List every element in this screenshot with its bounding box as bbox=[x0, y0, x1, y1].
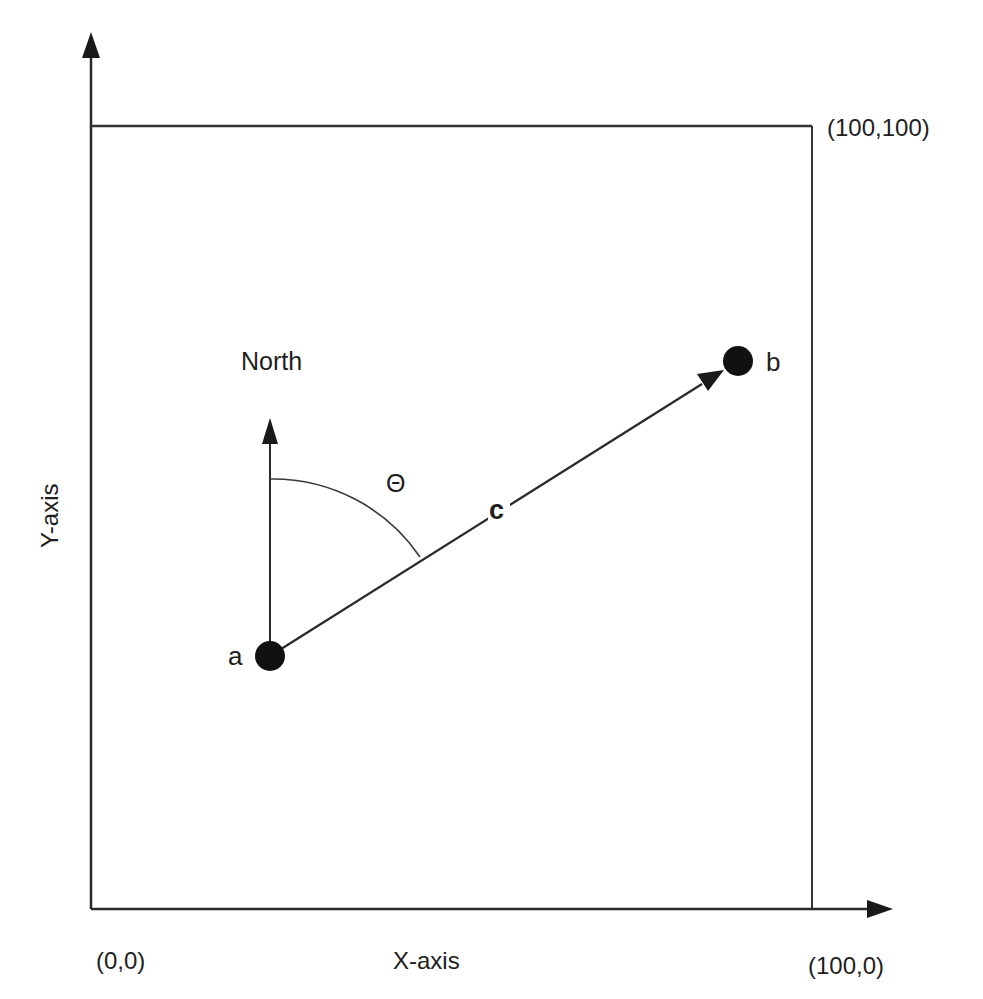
theta-label: Θ bbox=[386, 469, 405, 497]
x-axis bbox=[91, 900, 893, 918]
north-arrow bbox=[262, 418, 278, 656]
x-axis-label: X-axis bbox=[393, 947, 460, 974]
bounding-box bbox=[91, 126, 812, 909]
x-axis-arrow-icon bbox=[867, 900, 893, 918]
y-axis-arrow-icon bbox=[82, 32, 100, 58]
x-max-label: (100,0) bbox=[808, 952, 884, 979]
point-b bbox=[723, 346, 753, 376]
vector-arrow-icon bbox=[697, 370, 724, 391]
origin-label: (0,0) bbox=[96, 947, 145, 974]
y-axis-label: Y-axis bbox=[36, 484, 63, 548]
point-a-label: a bbox=[228, 641, 243, 671]
corner-label: (100,100) bbox=[827, 114, 930, 141]
vector-c-label: c bbox=[489, 495, 504, 525]
point-b-label: b bbox=[766, 347, 780, 377]
point-a bbox=[255, 641, 285, 671]
north-arrow-icon bbox=[262, 418, 278, 444]
bearing-diagram: North Θ c a b Y-axis (100,100) (0,0) X-a… bbox=[0, 0, 983, 999]
north-label: North bbox=[241, 347, 302, 375]
y-axis bbox=[82, 32, 100, 909]
